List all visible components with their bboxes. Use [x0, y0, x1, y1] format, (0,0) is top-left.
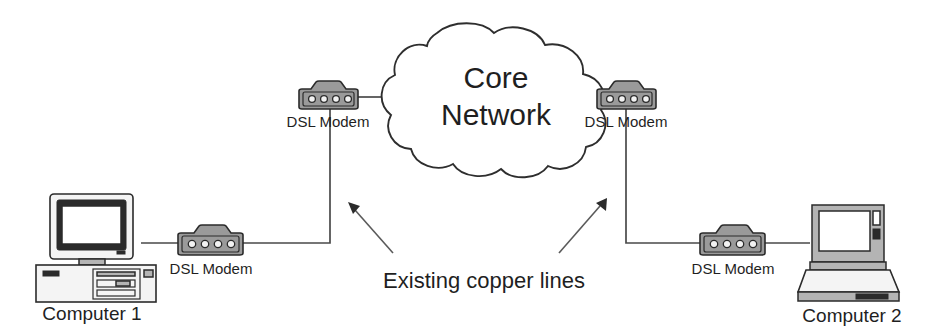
modem-label: DSL Modem — [585, 113, 668, 130]
modem-port — [749, 240, 756, 247]
modem-label: DSL Modem — [287, 113, 370, 130]
modem-computer1[interactable]: DSL Modem — [170, 225, 253, 277]
modem-label: DSL Modem — [170, 260, 253, 277]
modem-port — [227, 240, 234, 247]
modem-port — [643, 96, 650, 103]
modem-port — [631, 96, 638, 103]
modem-port — [345, 96, 352, 103]
modem-port — [736, 240, 743, 247]
modem-computer2[interactable]: DSL Modem — [692, 225, 775, 277]
modem-port — [201, 240, 208, 247]
modem-port — [333, 96, 340, 103]
copper-annotation-arrow-right — [559, 198, 607, 253]
modem-port — [710, 240, 717, 247]
modem-port — [214, 240, 221, 247]
modem-port — [321, 96, 328, 103]
copper-annotation-arrow-left — [348, 202, 393, 253]
computer1-device[interactable]: Computer 1 — [36, 194, 156, 324]
computer1-label: Computer 1 — [42, 303, 141, 324]
network-diagram: Core Network DSL Modem DSL Modem — [0, 0, 929, 328]
cloud-label-line1: Core — [463, 61, 528, 94]
computer2-device[interactable]: Computer 2 — [798, 205, 902, 326]
modem-cloud-left[interactable]: DSL Modem — [287, 81, 370, 130]
modem-port — [607, 96, 614, 103]
diagram-canvas: Core Network DSL Modem DSL Modem — [0, 0, 929, 328]
modem-port — [309, 96, 316, 103]
cloud-label-line2: Network — [441, 98, 552, 131]
modem-port — [619, 96, 626, 103]
modem-port — [723, 240, 730, 247]
modem-label: DSL Modem — [692, 260, 775, 277]
computer2-label: Computer 2 — [802, 305, 901, 326]
core-network-cloud: Core Network — [382, 23, 606, 177]
copper-lines-annotation: Existing copper lines — [383, 268, 585, 293]
modem-port — [188, 240, 195, 247]
